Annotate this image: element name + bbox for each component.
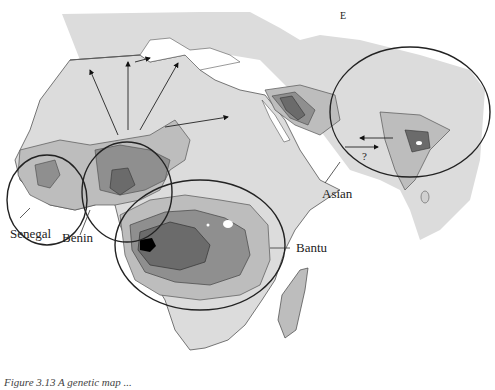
label-question: ? (362, 150, 367, 162)
label-e: E (340, 10, 346, 21)
label-asian: Asian (322, 186, 352, 202)
label-senegal: Senegal (10, 226, 51, 242)
genetic-map (0, 0, 495, 390)
label-benin: Benin (62, 230, 93, 246)
figure-caption: Figure 3.13 A genetic map ... (4, 376, 132, 388)
label-bantu: Bantu (296, 240, 327, 256)
